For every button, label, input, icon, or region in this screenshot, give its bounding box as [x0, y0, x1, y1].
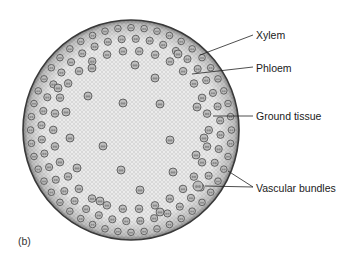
- stem-cross-section-figure: Xylem Phloem Ground tissue Vascular bund…: [0, 0, 352, 261]
- label-vascular-bundles: Vascular bundles: [256, 182, 336, 194]
- leader-line-vascular-bundles: [228, 171, 253, 187]
- label-ground-tissue: Ground tissue: [256, 110, 321, 122]
- panel-label: (b): [18, 235, 31, 247]
- label-xylem: Xylem: [256, 29, 285, 41]
- leader-line-xylem: [200, 35, 253, 55]
- label-phloem: Phloem: [256, 62, 292, 74]
- stem-diagram: [0, 0, 352, 261]
